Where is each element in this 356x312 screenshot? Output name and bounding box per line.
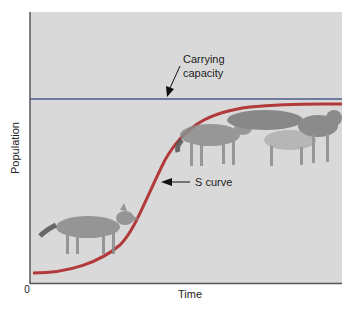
- y-axis-label: Population: [9, 122, 21, 174]
- s-curve-label: S curve: [195, 176, 232, 188]
- carrying-capacity-label-line2: capacity: [183, 67, 224, 79]
- logistic-growth-diagram: Carrying capacity S curve Population Tim…: [0, 0, 356, 312]
- x-axis-label: Time: [178, 288, 202, 300]
- origin-label: 0: [24, 284, 30, 295]
- carrying-capacity-label-line1: Carrying: [183, 53, 225, 65]
